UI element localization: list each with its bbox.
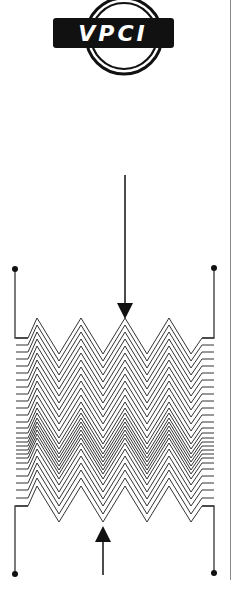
lead-top-left bbox=[15, 269, 28, 338]
strain-gauge-diagram bbox=[0, 0, 239, 595]
serpentine-grid bbox=[16, 318, 214, 522]
lead-wires bbox=[12, 265, 217, 577]
lead-top-right bbox=[202, 268, 214, 338]
diagram-canvas: VPCI bbox=[0, 0, 239, 595]
lead-bottom-left bbox=[15, 506, 28, 574]
terminal-dot-icon bbox=[211, 570, 217, 576]
arrow-up-icon bbox=[95, 526, 111, 542]
terminal-dot-icon bbox=[12, 571, 18, 577]
lead-bottom-right bbox=[202, 506, 214, 573]
force-arrows bbox=[95, 175, 133, 575]
arrow-down-icon bbox=[117, 303, 133, 319]
terminal-dot-icon bbox=[12, 266, 18, 272]
terminal-dot-icon bbox=[211, 265, 217, 271]
